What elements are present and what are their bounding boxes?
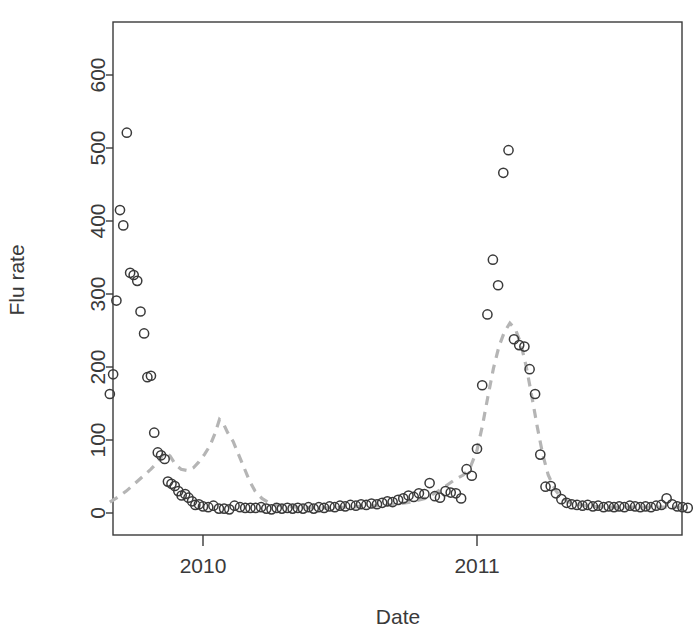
x-tick-label: 2010 [180,554,227,577]
y-tick-label: 400 [86,203,109,238]
y-tick-label: 300 [86,276,109,311]
x-axis-title: Date [376,605,420,628]
flu-rate-scatter-chart: 0100200300400500600 20102011 Flu rate Da… [0,0,696,644]
y-tick-label: 0 [86,507,109,519]
figure-background [0,0,696,644]
y-tick-label: 100 [86,422,109,457]
y-tick-label: 600 [86,57,109,92]
y-tick-label: 200 [86,349,109,384]
chart-figure: 0100200300400500600 20102011 Flu rate Da… [0,0,696,644]
y-tick-label: 500 [86,130,109,165]
y-axis-title: Flu rate [5,244,28,315]
x-tick-label: 2011 [454,554,499,577]
